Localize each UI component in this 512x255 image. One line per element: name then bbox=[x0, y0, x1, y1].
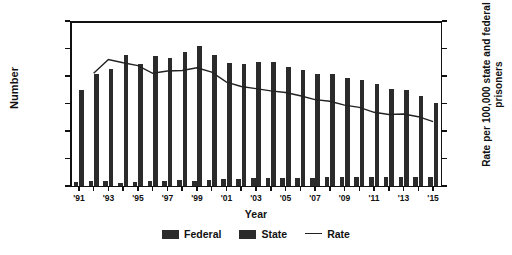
x-tick bbox=[167, 187, 169, 191]
x-tick bbox=[122, 187, 124, 191]
x-tick bbox=[403, 187, 405, 191]
x-tick bbox=[388, 187, 390, 191]
legend-swatch-icon bbox=[162, 230, 179, 239]
x-tick bbox=[152, 187, 154, 191]
x-tick-label: '11 bbox=[361, 193, 387, 203]
x-tick bbox=[181, 187, 183, 191]
x-tick bbox=[359, 187, 361, 191]
x-tick bbox=[373, 187, 375, 191]
x-tick bbox=[78, 187, 80, 191]
x-tick-label: '91 bbox=[66, 193, 92, 203]
x-tick bbox=[329, 187, 331, 191]
x-tick-label: '15 bbox=[420, 193, 446, 203]
x-tick bbox=[314, 187, 316, 191]
legend-line-marker-icon bbox=[305, 233, 322, 234]
x-tick-label: '97 bbox=[154, 193, 180, 203]
x-tick-label: '07 bbox=[302, 193, 328, 203]
x-tick bbox=[432, 187, 434, 191]
y-tick-right bbox=[442, 48, 447, 50]
x-tick bbox=[270, 187, 272, 191]
rate-line-layer bbox=[70, 21, 442, 186]
rate-line bbox=[94, 60, 433, 122]
legend-item-state[interactable]: State bbox=[239, 228, 287, 240]
x-tick-label: '05 bbox=[273, 193, 299, 203]
x-tick-label: '95 bbox=[125, 193, 151, 203]
legend-swatch-icon bbox=[239, 230, 256, 239]
x-tick bbox=[240, 187, 242, 191]
y-tick-right bbox=[442, 103, 447, 105]
y-tick-right bbox=[442, 185, 447, 187]
x-tick bbox=[93, 187, 95, 191]
legend-label: Rate bbox=[327, 228, 350, 240]
x-tick-label: '09 bbox=[332, 193, 358, 203]
x-tick-label: '13 bbox=[391, 193, 417, 203]
plot-area: 05,00010,00015,00020,00025,00030,000 050… bbox=[70, 21, 442, 186]
y-tick-right bbox=[442, 130, 447, 132]
x-axis-label: Year bbox=[181, 208, 331, 220]
y-tick-right bbox=[442, 75, 447, 77]
x-tick bbox=[344, 187, 346, 191]
x-tick bbox=[108, 187, 110, 191]
chart-legend: FederalStateRate bbox=[0, 228, 512, 240]
y-tick-right bbox=[442, 20, 447, 22]
legend-item-rate[interactable]: Rate bbox=[305, 228, 350, 240]
x-tick-label: '93 bbox=[95, 193, 121, 203]
x-tick bbox=[255, 187, 257, 191]
chart-figure: Number Rate per 100,000 state and federa… bbox=[0, 0, 512, 255]
y-tick-right bbox=[442, 158, 447, 160]
x-tick bbox=[211, 187, 213, 191]
x-tick-label: '99 bbox=[184, 193, 210, 203]
x-tick bbox=[196, 187, 198, 191]
y-axis-label-left: Number bbox=[8, 43, 20, 133]
legend-label: Federal bbox=[184, 228, 221, 240]
legend-item-federal[interactable]: Federal bbox=[162, 228, 221, 240]
legend-label: State bbox=[261, 228, 287, 240]
x-tick bbox=[300, 187, 302, 191]
x-tick bbox=[226, 187, 228, 191]
x-tick-label: '01 bbox=[213, 193, 239, 203]
x-tick bbox=[137, 187, 139, 191]
x-tick bbox=[418, 187, 420, 191]
y-axis-label-right: Rate per 100,000 state and federal priso… bbox=[481, 0, 504, 185]
x-tick-label: '03 bbox=[243, 193, 269, 203]
x-tick bbox=[285, 187, 287, 191]
